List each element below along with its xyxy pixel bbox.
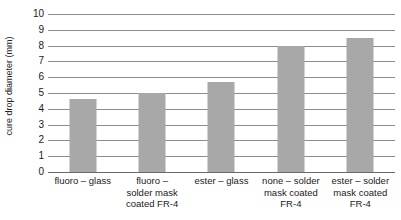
x-category-label: none – soldermask coatedFR-4 xyxy=(256,175,325,210)
y-tick-label-3: 3 xyxy=(20,120,44,130)
y-tick-label-0: 0 xyxy=(20,167,44,177)
y-tick-label-2: 2 xyxy=(20,135,44,145)
x-axis-category-labels: fluoro – glassfluoro –solder maskcoated … xyxy=(48,175,395,220)
y-tick-label-8: 8 xyxy=(20,41,44,51)
y-tick-label-5: 5 xyxy=(20,88,44,98)
x-category-label-line: mask coated xyxy=(326,187,395,199)
gridline-0 xyxy=(48,172,395,173)
x-category-label-line: solder mask xyxy=(117,187,186,199)
bar xyxy=(277,46,304,172)
x-category-label-line: none – solder xyxy=(256,175,325,187)
x-category-label-line: FR-4 xyxy=(326,198,395,210)
bar xyxy=(347,38,374,172)
bar-slot xyxy=(48,14,117,172)
x-category-label-line: fluoro – glass xyxy=(48,175,117,187)
y-tick-label-10: 10 xyxy=(20,9,44,19)
x-category-label-line: fluoro – xyxy=(117,175,186,187)
y-axis-title: cure drop diameter (mm) xyxy=(0,0,18,172)
y-tick-label-6: 6 xyxy=(20,72,44,82)
x-category-label-line: coated FR-4 xyxy=(117,198,186,210)
x-category-label-line: mask coated xyxy=(256,187,325,199)
y-tick-label-9: 9 xyxy=(20,25,44,35)
bar xyxy=(139,93,166,172)
bar-slot xyxy=(117,14,186,172)
bar-slot xyxy=(256,14,325,172)
bar-slot xyxy=(187,14,256,172)
x-category-label-line: FR-4 xyxy=(256,198,325,210)
y-tick-label-7: 7 xyxy=(20,56,44,66)
x-category-label-line: ester – solder xyxy=(326,175,395,187)
y-axis-title-text: cure drop diameter (mm) xyxy=(4,36,14,135)
bar xyxy=(208,82,235,172)
bar-slot xyxy=(326,14,395,172)
x-category-label: fluoro –solder maskcoated FR-4 xyxy=(117,175,186,210)
y-axis-tick-labels: 109876543210 xyxy=(18,14,44,172)
x-category-label-line: ester – glass xyxy=(187,175,256,187)
bar-chart: cure drop diameter (mm) 109876543210 flu… xyxy=(0,0,401,220)
y-tick-label-4: 4 xyxy=(20,104,44,114)
y-tick-label-1: 1 xyxy=(20,151,44,161)
x-category-label: ester – soldermask coatedFR-4 xyxy=(326,175,395,210)
x-category-label: ester – glass xyxy=(187,175,256,187)
bars-layer xyxy=(48,14,395,172)
x-category-label: fluoro – glass xyxy=(48,175,117,187)
bar xyxy=(69,99,96,172)
